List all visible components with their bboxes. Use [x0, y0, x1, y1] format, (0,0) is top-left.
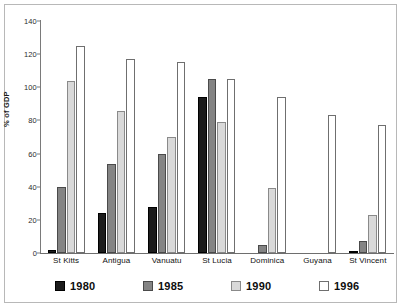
bar-1985	[107, 164, 116, 253]
bar-1990	[167, 137, 176, 253]
bar-1996	[227, 79, 236, 253]
bar-1990	[368, 215, 377, 253]
bar-1985	[359, 241, 368, 253]
legend-item-1990: 1990	[217, 280, 305, 292]
legend-swatch-icon	[55, 281, 65, 291]
bar-1985	[208, 79, 217, 253]
bar-1985	[258, 245, 267, 253]
bar-group	[292, 21, 342, 253]
bar-group	[41, 21, 91, 253]
y-tick-label: 100	[24, 83, 37, 92]
x-axis-category-label: Antigua	[91, 256, 141, 265]
bar-1985	[57, 187, 66, 253]
bar-group	[242, 21, 292, 253]
bar-1996	[328, 115, 337, 253]
legend-item-1985: 1985	[129, 280, 217, 292]
bar-1990	[217, 122, 226, 253]
y-tick-label: 60	[28, 149, 37, 158]
bar-1996	[378, 125, 387, 253]
bar-1980	[148, 207, 157, 253]
bar-group	[91, 21, 141, 253]
x-axis-category-label: Guyana	[292, 256, 342, 265]
bar-chart-figure: 020406080100120140 % of GDP 198019851990…	[0, 0, 401, 306]
bar-1980	[48, 250, 57, 253]
bar-1990	[117, 111, 126, 254]
bar-1990	[268, 188, 277, 253]
bar-1996	[76, 46, 85, 253]
bar-1980	[98, 213, 107, 253]
legend-swatch-icon	[231, 281, 241, 291]
legend-swatch-icon	[319, 281, 329, 291]
y-tick-label: 140	[24, 17, 37, 26]
bar-group	[142, 21, 192, 253]
legend-item-1996: 1996	[305, 280, 393, 292]
bar-1985	[158, 154, 167, 253]
bar-1980	[198, 97, 207, 253]
y-tick-label: 120	[24, 50, 37, 59]
legend-label: 1980	[70, 280, 95, 292]
legend-label: 1990	[246, 280, 271, 292]
x-axis-category-label: Dominica	[242, 256, 292, 265]
legend-label: 1996	[334, 280, 359, 292]
bar-1980	[349, 251, 358, 253]
y-axis-title: % of GDP	[2, 91, 11, 127]
chart-legend: 1980198519901996	[41, 277, 393, 295]
x-axis-category-label: Vanuatu	[142, 256, 192, 265]
x-axis-category-label: St Kitts	[41, 256, 91, 265]
x-axis-category-label: St Lucia	[192, 256, 242, 265]
bar-1996	[126, 59, 135, 253]
plot-area	[41, 21, 393, 253]
x-axis-line	[40, 253, 394, 254]
x-axis-category-label: St Vincent	[343, 256, 393, 265]
y-tick-label: 40	[28, 182, 37, 191]
y-tick-label: 20	[28, 215, 37, 224]
bar-group	[343, 21, 393, 253]
bar-1990	[67, 81, 76, 253]
bar-1996	[177, 62, 186, 253]
y-axis-ticks: 020406080100120140	[0, 0, 37, 306]
bar-group	[192, 21, 242, 253]
bar-1996	[277, 97, 286, 253]
legend-swatch-icon	[143, 281, 153, 291]
y-tick-label: 80	[28, 116, 37, 125]
legend-item-1980: 1980	[41, 280, 129, 292]
legend-label: 1985	[158, 280, 183, 292]
